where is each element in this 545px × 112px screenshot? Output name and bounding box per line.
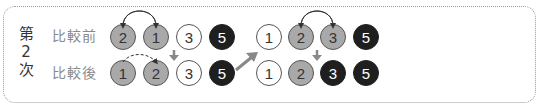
swap-arc-icon bbox=[301, 11, 333, 26]
arrows-layer bbox=[0, 0, 545, 112]
swap-arc-icon bbox=[123, 11, 156, 26]
dashed-arc-icon bbox=[123, 55, 156, 63]
swap-arc-icon bbox=[123, 11, 156, 26]
swap-arc-icon bbox=[301, 11, 333, 26]
diagonal-arrow-icon bbox=[236, 57, 252, 70]
